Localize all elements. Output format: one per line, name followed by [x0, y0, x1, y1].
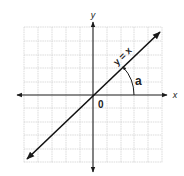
line-equation-label: y = x	[111, 44, 135, 67]
x-axis-label: x	[172, 90, 178, 100]
y-axis-label: y	[90, 10, 96, 20]
coordinate-diagram: y x 0 a y = x	[0, 0, 184, 176]
angle-label: a	[135, 74, 142, 88]
angle-arc-icon	[123, 67, 134, 95]
origin-label: 0	[98, 99, 104, 110]
